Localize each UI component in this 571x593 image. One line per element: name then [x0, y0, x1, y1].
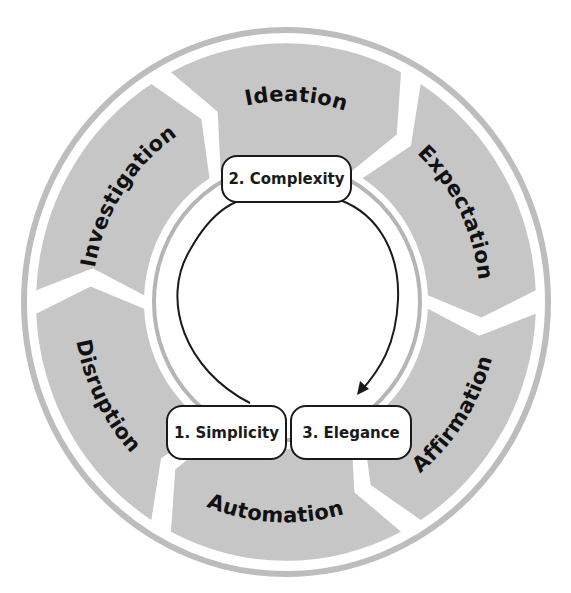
inner-cycle-arc-right	[340, 200, 398, 392]
stage-label-elegance: 3. Elegance	[302, 424, 400, 442]
cycle-diagram: IdeationExpectationAffirmationAutomation…	[0, 0, 571, 593]
stage-box-elegance: 3. Elegance	[290, 405, 412, 460]
stage-box-complexity: 2. Complexity	[221, 155, 352, 203]
stage-box-simplicity: 1. Simplicity	[166, 405, 287, 460]
stage-label-complexity: 2. Complexity	[228, 170, 344, 188]
inner-cycle-arc	[177, 200, 250, 403]
inner-ring	[154, 164, 420, 440]
stage-label-simplicity: 1. Simplicity	[174, 424, 279, 442]
outer-cycle-segments	[36, 43, 535, 561]
